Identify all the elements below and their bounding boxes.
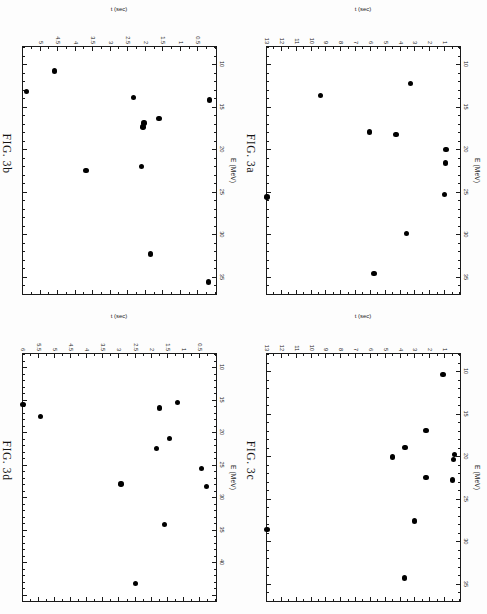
x-tick-minor <box>23 149 27 150</box>
y-tick <box>198 47 199 51</box>
x-tick-minor <box>267 575 269 576</box>
x-tick-minor <box>214 419 216 420</box>
y-tick <box>348 47 349 49</box>
y-tick-label: 4 <box>84 338 90 351</box>
y-tick <box>318 47 319 49</box>
y-tick <box>172 292 173 294</box>
x-tick-minor <box>23 354 25 355</box>
data-point <box>318 93 323 98</box>
x-tick-minor <box>456 414 460 415</box>
y-tick <box>215 292 216 294</box>
y-tick <box>127 599 128 601</box>
panel-fig3c: E (MeV) t (sec) 101520253035123456789101… <box>244 307 487 614</box>
y-tick <box>437 47 438 49</box>
x-tick-minor <box>23 285 25 286</box>
y-tick <box>407 292 408 294</box>
x-tick-minor <box>23 569 25 570</box>
x-tick-minor <box>23 530 27 531</box>
y-tick <box>103 354 104 358</box>
y-tick <box>101 47 102 49</box>
y-tick <box>207 354 208 356</box>
x-tick-minor <box>23 497 27 498</box>
y-tick <box>385 290 386 294</box>
x-tick-minor <box>23 234 27 235</box>
x-tick-minor <box>23 471 25 472</box>
y-tick <box>437 292 438 294</box>
y-tick-label: 2.5 <box>125 31 131 44</box>
x-tick-minor <box>267 294 269 295</box>
x-tick-minor <box>212 432 216 433</box>
y-tick-label: 1 <box>181 338 187 351</box>
data-point <box>162 522 167 527</box>
y-tick <box>215 599 216 601</box>
y-tick <box>183 597 184 601</box>
y-tick <box>311 354 312 358</box>
y-tick-label: 13 <box>264 31 270 44</box>
y-tick <box>159 354 160 356</box>
x-tick-minor <box>214 439 216 440</box>
y-tick <box>356 47 357 51</box>
x-tick-minor <box>23 73 25 74</box>
y-tick <box>40 290 41 294</box>
figure-caption-fig3b: FIG. 3b <box>1 0 13 307</box>
y-tick <box>22 597 23 601</box>
y-tick <box>341 47 342 51</box>
data-point <box>393 132 398 137</box>
x-tick-minor <box>267 550 269 551</box>
x-tick-minor <box>23 200 25 201</box>
x-tick-minor <box>23 439 25 440</box>
y-tick <box>266 597 267 601</box>
y-tick <box>326 597 327 601</box>
y-tick <box>119 47 120 49</box>
x-tick-label: 20 <box>463 146 469 152</box>
y-tick <box>393 292 394 294</box>
x-tick-minor <box>214 217 216 218</box>
x-tick-minor <box>458 209 460 210</box>
x-tick-minor <box>214 569 216 570</box>
y-tick-label: 1.5 <box>165 338 171 351</box>
x-tick-minor <box>267 124 269 125</box>
y-tick <box>143 354 144 356</box>
x-tick-minor <box>458 601 460 602</box>
y-tick <box>400 597 401 601</box>
x-tick-minor <box>23 562 27 563</box>
x-tick-minor <box>458 533 460 534</box>
x-tick-minor <box>23 251 25 252</box>
y-tick <box>430 597 431 601</box>
y-tick <box>63 354 64 356</box>
data-point <box>402 445 407 450</box>
y-tick-label: 1 <box>442 31 448 44</box>
x-tick-minor <box>23 132 25 133</box>
x-tick-minor <box>214 285 216 286</box>
y-tick <box>119 292 120 294</box>
data-point <box>139 164 144 169</box>
y-tick <box>135 354 136 358</box>
y-tick-label: 7 <box>353 338 359 351</box>
x-tick-minor <box>214 549 216 550</box>
y-axis-title-wrap: t (sec) <box>266 14 461 30</box>
y-tick <box>47 599 48 601</box>
x-tick-minor <box>23 226 25 227</box>
x-tick-minor <box>214 141 216 142</box>
y-tick <box>159 599 160 601</box>
x-tick-minor <box>267 371 271 372</box>
y-tick <box>452 292 453 294</box>
y-tick-label: 2 <box>427 31 433 44</box>
x-tick-minor <box>23 158 25 159</box>
y-tick <box>95 354 96 356</box>
y-tick <box>296 354 297 358</box>
y-tick-label: 7 <box>353 31 359 44</box>
y-tick <box>55 597 56 601</box>
data-point <box>204 484 209 489</box>
x-tick-label: 10 <box>219 364 225 370</box>
x-tick-minor <box>23 107 27 108</box>
y-tick <box>415 47 416 51</box>
y-tick <box>31 292 32 294</box>
y-axis-title-wrap: t (sec) <box>22 14 217 30</box>
y-tick <box>422 47 423 49</box>
x-tick-minor <box>267 251 269 252</box>
y-tick <box>415 597 416 601</box>
x-tick-minor <box>267 533 269 534</box>
x-tick-minor <box>267 149 271 150</box>
y-tick-label: 10 <box>309 31 315 44</box>
